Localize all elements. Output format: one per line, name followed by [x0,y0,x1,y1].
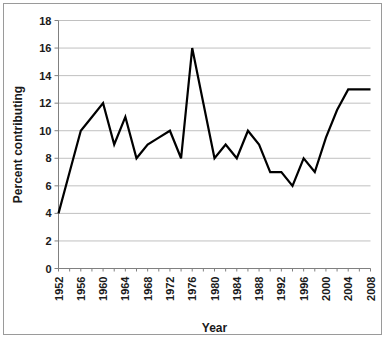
x-tick-label-1992: 1992 [275,277,287,301]
x-tick-label-1956: 1956 [75,277,87,301]
y-axis-ticks: 024681012141618 [39,15,58,275]
x-tick-label-1976: 1976 [186,277,198,301]
x-tick-label-2008: 2008 [365,277,377,301]
x-tick-label-2000: 2000 [320,277,332,301]
x-axis-title: Year [202,321,228,335]
x-tick-label-1988: 1988 [253,277,265,301]
x-tick-label-1972: 1972 [164,277,176,301]
x-tick-label-1980: 1980 [209,277,221,301]
x-tick-label-1984: 1984 [231,276,243,301]
x-tick-label-1960: 1960 [97,277,109,301]
y-tick-label-4: 4 [45,207,52,219]
line-chart: 0246810121416181952195619601964196819721… [0,0,386,339]
x-tick-label-1996: 1996 [298,277,310,301]
x-tick-label-1952: 1952 [53,277,65,301]
y-tick-label-12: 12 [39,97,51,109]
x-axis-tick-labels: 1952195619601964196819721976198019841988… [53,276,377,301]
y-tick-label-8: 8 [45,152,51,164]
y-tick-label-6: 6 [45,180,51,192]
x-tick-label-2004: 2004 [342,276,354,301]
y-tick-label-2: 2 [45,235,51,247]
chart-figure: 0246810121416181952195619601964196819721… [0,0,386,339]
y-tick-label-16: 16 [39,42,51,54]
y-axis-title: Percent contributing [11,86,25,203]
x-tick-label-1964: 1964 [119,276,131,301]
y-tick-label-10: 10 [39,125,51,137]
x-tick-label-1968: 1968 [142,277,154,301]
y-tick-label-14: 14 [39,70,52,82]
y-tick-label-0: 0 [45,263,51,275]
y-tick-label-18: 18 [39,15,51,27]
